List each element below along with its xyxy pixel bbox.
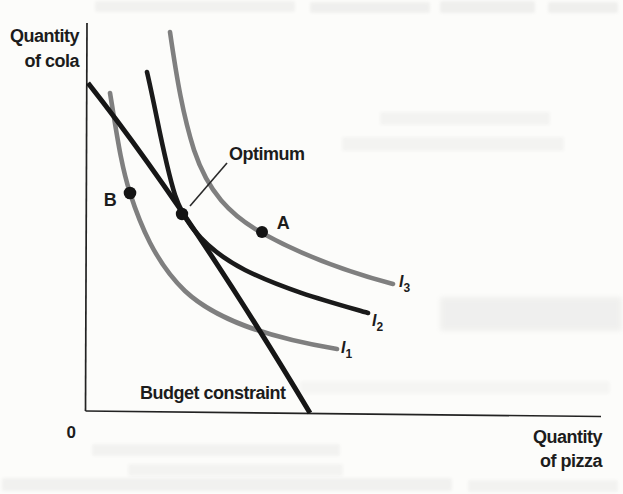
indifference-curve-i1 (110, 93, 337, 349)
point-b-marker (124, 187, 137, 200)
indifference-curve-chart: Quantity of cola Quantity of pizza 0 Opt… (0, 0, 623, 494)
indifference-curve-i2 (147, 72, 368, 313)
x-axis (86, 411, 602, 417)
x-axis-label-line2: of pizza (540, 451, 603, 471)
point-a-label: A (277, 213, 290, 233)
curve-label-i1-sub: 1 (345, 347, 352, 361)
point-a-marker (256, 226, 268, 238)
y-axis-label-line1: Quantity (10, 26, 79, 46)
budget-constraint-line (88, 83, 310, 413)
optimum-label: Optimum (229, 144, 305, 164)
point-b-label: B (104, 190, 117, 210)
curve-label-i3: I3 (399, 273, 410, 295)
optimum-point (176, 208, 188, 220)
budget-constraint-label: Budget constraint (140, 383, 286, 403)
y-axis (86, 23, 88, 411)
origin-label: 0 (67, 423, 76, 442)
curve-label-i2-sub: 2 (376, 320, 383, 334)
y-axis-label-line2: of cola (24, 51, 80, 71)
x-axis-label-line1: Quantity (533, 427, 602, 447)
curve-label-i1: I1 (341, 339, 352, 361)
scanned-textbook-figure: Quantity of cola Quantity of pizza 0 Opt… (0, 0, 623, 494)
curve-label-i2: I2 (372, 312, 383, 334)
curve-label-i3-sub: 3 (403, 281, 410, 295)
